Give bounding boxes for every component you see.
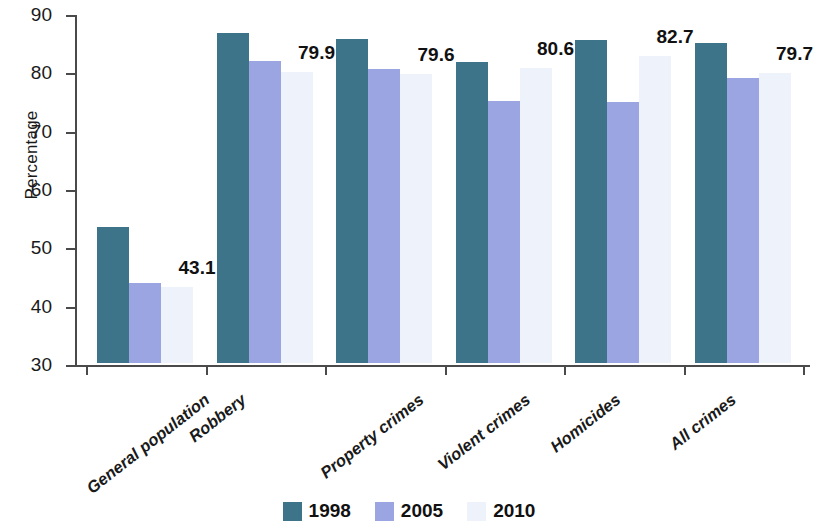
y-axis-tick: 90 — [66, 15, 75, 17]
bar-value-label: 79.6 — [418, 44, 455, 66]
bar-2005 — [488, 101, 520, 364]
y-axis-tick-label: 90 — [31, 4, 52, 26]
x-axis-tick — [445, 365, 447, 375]
bar-1998 — [97, 227, 129, 364]
bar-2005 — [607, 102, 639, 363]
bar-value-label: 79.7 — [776, 43, 813, 65]
y-axis-tick-label: 70 — [31, 121, 52, 143]
y-axis-tick: 60 — [66, 190, 75, 192]
x-axis-category-label: Violent crimes — [433, 390, 533, 474]
y-axis-line — [75, 15, 77, 367]
bar-1998 — [575, 40, 607, 363]
x-axis-category-label: Property crimes — [317, 390, 428, 482]
bar-chart: Percentage 30405060708090 43.179.979.680… — [0, 0, 818, 528]
legend-swatch-2005 — [375, 502, 394, 521]
bar-group — [695, 13, 791, 363]
bar-2005 — [249, 61, 281, 363]
bar-2010 — [520, 68, 552, 363]
bar-2005 — [727, 78, 759, 363]
bar-group — [97, 13, 193, 363]
x-axis-category-label: All crimes — [665, 390, 739, 454]
bar-1998 — [336, 39, 368, 363]
x-axis-tick — [684, 365, 686, 375]
y-axis-tick-label: 40 — [31, 296, 52, 318]
y-axis-tick: 70 — [66, 132, 75, 134]
bar-group — [575, 13, 671, 363]
x-axis-category-label: General population — [83, 390, 213, 498]
legend-item[interactable]: 2005 — [375, 500, 443, 522]
y-axis-title: Percentage — [22, 85, 42, 225]
bar-1998 — [217, 33, 249, 363]
y-axis-tick: 50 — [66, 248, 75, 250]
bar-2005 — [129, 283, 161, 363]
x-axis-tick — [564, 365, 566, 375]
bar-2005 — [368, 69, 400, 363]
legend-item[interactable]: 2010 — [467, 500, 535, 522]
x-axis-category-label: Homicides — [547, 390, 624, 456]
bar-value-label: 79.9 — [298, 42, 335, 64]
bar-value-label: 80.6 — [537, 38, 574, 60]
bar-2010 — [161, 287, 193, 363]
bar-1998 — [456, 62, 488, 363]
bar-1998 — [695, 43, 727, 363]
bar-group — [217, 13, 313, 363]
bar-value-label: 82.7 — [657, 26, 694, 48]
chart-legend: 199820052010 — [0, 500, 818, 522]
x-axis-tick — [803, 365, 805, 375]
y-axis-tick-label: 80 — [31, 62, 52, 84]
bar-group — [456, 13, 552, 363]
legend-swatch-2010 — [467, 502, 486, 521]
y-axis-tick-label: 50 — [31, 237, 52, 259]
x-axis-tick — [325, 365, 327, 375]
y-axis-tick: 80 — [66, 73, 75, 75]
bar-2010 — [759, 73, 791, 363]
y-axis-tick: 40 — [66, 307, 75, 309]
x-axis-tick — [86, 365, 88, 375]
x-axis-tick — [206, 365, 208, 375]
legend-item[interactable]: 1998 — [283, 500, 351, 522]
plot-area: 30405060708090 43.179.979.680.682.779.7 — [75, 15, 810, 365]
y-axis-tick-label: 60 — [31, 179, 52, 201]
bar-2010 — [639, 56, 671, 363]
bar-2010 — [400, 74, 432, 363]
x-axis-line — [75, 365, 810, 367]
legend-label: 2010 — [493, 500, 535, 522]
bar-2010 — [281, 72, 313, 363]
bar-value-label: 43.1 — [179, 257, 216, 279]
y-axis-tick: 30 — [66, 365, 75, 367]
y-axis-tick-label: 30 — [31, 354, 52, 376]
legend-swatch-1998 — [283, 502, 302, 521]
legend-label: 1998 — [309, 500, 351, 522]
legend-label: 2005 — [401, 500, 443, 522]
